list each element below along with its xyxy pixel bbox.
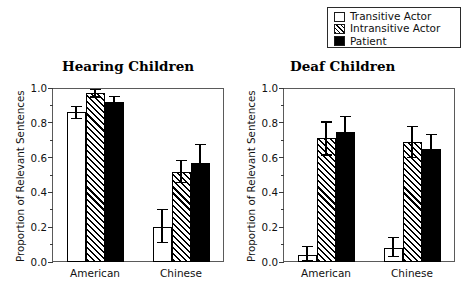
- error-bar-stem: [430, 134, 431, 164]
- figure-bar-chart: Transitive Actor Intransitive Actor Pati…: [0, 0, 465, 293]
- y-axis-tick-label: 0.4: [20, 186, 47, 198]
- chart-legend: Transitive Actor Intransitive Actor Pati…: [327, 7, 461, 48]
- x-axis-tick-label-chinese: Chinese: [367, 267, 457, 279]
- error-bar-cap-lower: [388, 256, 399, 257]
- error-bar-cap-upper: [71, 106, 82, 107]
- y-axis-minor-tick: [50, 140, 54, 141]
- panel-title-deaf-children: Deaf Children: [290, 58, 395, 74]
- legend-item-patient: Patient: [334, 35, 460, 47]
- y-axis-major-tick: [279, 227, 284, 228]
- error-bar-stem: [392, 238, 393, 257]
- y-axis-major-tick: [279, 157, 284, 158]
- error-bar-stem: [161, 210, 162, 243]
- y-axis-minor-tick: [281, 175, 285, 176]
- y-axis-major-tick: [48, 227, 53, 228]
- error-bar-cap-lower: [407, 157, 418, 158]
- y-axis-minor-tick: [50, 244, 54, 245]
- error-bar-stem: [411, 126, 412, 157]
- y-axis-minor-tick: [281, 105, 285, 106]
- y-axis-major-tick: [48, 122, 53, 123]
- y-axis-tick-label: 0.0: [251, 256, 278, 268]
- error-bar-stem: [199, 145, 200, 179]
- y-axis-tick-label: 0.8: [20, 117, 47, 129]
- y-axis-tick-label: 1.0: [251, 82, 278, 94]
- bar-deaf-children-american-intransitive-actor: [317, 138, 336, 262]
- y-axis-minor-tick: [50, 209, 54, 210]
- error-bar-stem: [113, 96, 114, 107]
- y-axis-major-tick: [48, 262, 53, 263]
- y-axis-major-tick: [279, 88, 284, 89]
- bar-hearing-children-american-transitive-actor: [67, 112, 86, 262]
- error-bar-cap-lower: [109, 107, 120, 108]
- error-bar-cap-upper: [195, 144, 206, 145]
- y-axis-tick-label: 0.6: [251, 152, 278, 164]
- error-bar-cap-upper: [340, 116, 351, 117]
- legend-item-transitive-actor: Transitive Actor: [334, 11, 460, 23]
- error-bar-cap-upper: [176, 160, 187, 161]
- error-bar-cap-lower: [71, 118, 82, 119]
- y-axis-tick-label: 0.4: [251, 186, 278, 198]
- bar-deaf-children-chinese-patient: [422, 149, 441, 262]
- bar-deaf-children-chinese-intransitive-actor: [403, 142, 422, 262]
- error-bar-cap-lower: [321, 154, 332, 155]
- bar-deaf-children-american-patient: [336, 132, 355, 263]
- error-bar-cap-upper: [302, 246, 313, 247]
- legend-label-patient: Patient: [350, 36, 387, 47]
- legend-label-intransitive-actor: Intransitive Actor: [350, 23, 440, 34]
- bar-hearing-children-chinese-intransitive-actor: [172, 172, 191, 262]
- y-axis-tick-label: 0.6: [20, 152, 47, 164]
- panel-title-hearing-children: Hearing Children: [62, 58, 194, 74]
- y-axis-minor-tick: [50, 175, 54, 176]
- error-bar-cap-upper: [321, 121, 332, 122]
- y-axis-tick-label: 0.2: [20, 221, 47, 233]
- error-bar-cap-lower: [302, 260, 313, 261]
- x-axis-tick-label-american: American: [50, 267, 140, 279]
- error-bar-cap-upper: [426, 134, 437, 135]
- legend-swatch-transitive-actor: [334, 12, 345, 22]
- error-bar-cap-upper: [157, 209, 168, 210]
- y-axis-minor-tick: [50, 105, 54, 106]
- y-axis-major-tick: [279, 262, 284, 263]
- legend-swatch-intransitive-actor: [334, 24, 345, 34]
- y-axis-minor-tick: [281, 209, 285, 210]
- legend-swatch-patient: [334, 36, 345, 46]
- error-bar-cap-lower: [426, 163, 437, 164]
- y-axis-tick-label: 0.8: [251, 117, 278, 129]
- y-axis-tick-label: 1.0: [20, 82, 47, 94]
- y-axis-major-tick: [279, 192, 284, 193]
- x-axis-tick-label-chinese: Chinese: [136, 267, 226, 279]
- error-bar-cap-upper: [90, 89, 101, 90]
- error-bar-cap-upper: [109, 96, 120, 97]
- error-bar-cap-lower: [195, 178, 206, 179]
- error-bar-stem: [344, 117, 345, 147]
- bar-hearing-children-american-intransitive-actor: [86, 93, 105, 262]
- y-axis-minor-tick: [281, 140, 285, 141]
- y-axis-major-tick: [48, 192, 53, 193]
- y-axis-major-tick: [48, 157, 53, 158]
- error-bar-stem: [306, 246, 307, 260]
- y-axis-tick-label: 0.2: [251, 221, 278, 233]
- error-bar-stem: [180, 160, 181, 183]
- x-axis-tick-label-american: American: [281, 267, 371, 279]
- y-axis-tick-label: 0.0: [20, 256, 47, 268]
- bar-hearing-children-american-patient: [105, 102, 124, 262]
- y-axis-major-tick: [48, 88, 53, 89]
- error-bar-cap-lower: [157, 242, 168, 243]
- error-bar-cap-lower: [176, 182, 187, 183]
- error-bar-cap-lower: [340, 146, 351, 147]
- legend-item-intransitive-actor: Intransitive Actor: [334, 23, 460, 35]
- error-bar-cap-lower: [90, 96, 101, 97]
- error-bar-cap-upper: [388, 237, 399, 238]
- error-bar-stem: [75, 106, 76, 118]
- y-axis-minor-tick: [281, 244, 285, 245]
- error-bar-cap-upper: [407, 126, 418, 127]
- y-axis-major-tick: [279, 122, 284, 123]
- legend-label-transitive-actor: Transitive Actor: [350, 11, 431, 22]
- error-bar-stem: [325, 122, 326, 155]
